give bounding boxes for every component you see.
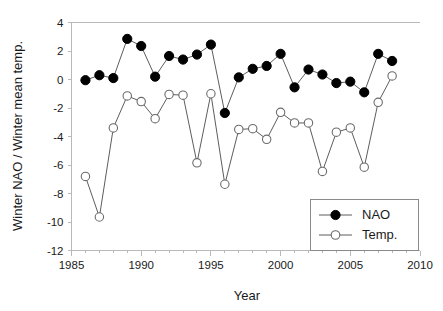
y-tick-label: 4 <box>57 17 64 29</box>
data-point-nao-1987 <box>95 71 104 80</box>
data-point-nao-1990 <box>137 41 146 50</box>
winter-nao-temperature-line-chart: 420-2-4-6-8-10-12 1985199019952000200520… <box>0 0 443 311</box>
data-point-temp-2001 <box>290 119 298 127</box>
data-point-temp-1991 <box>151 114 159 122</box>
y-tick-label: -8 <box>53 188 63 200</box>
x-tick-label: 2005 <box>338 259 364 271</box>
data-point-temp-1994 <box>193 159 201 167</box>
x-tick-label: 1985 <box>59 259 85 271</box>
data-point-nao-1995 <box>206 40 215 49</box>
data-point-nao-2004 <box>332 78 341 87</box>
data-point-temp-2004 <box>332 128 340 136</box>
data-point-temp-2005 <box>346 124 354 132</box>
data-point-temp-1988 <box>109 124 117 132</box>
data-point-nao-1999 <box>262 61 271 70</box>
data-point-temp-2006 <box>360 163 368 171</box>
data-point-nao-2008 <box>388 56 397 65</box>
data-point-temp-1999 <box>262 135 270 143</box>
x-axis-tick-labels: 198519901995200020052010 <box>59 259 433 271</box>
x-axis-title: Year <box>234 288 261 303</box>
data-point-temp-1986 <box>81 172 89 180</box>
y-tick-label: 0 <box>57 74 63 86</box>
data-point-nao-2005 <box>346 77 355 86</box>
y-axis-title: Winter NAO / Winter mean temp. <box>10 41 25 231</box>
y-axis-tick-labels: 420-2-4-6-8-10-12 <box>47 17 64 257</box>
legend-marker-nao <box>331 210 340 219</box>
data-point-temp-2007 <box>374 98 382 106</box>
data-point-temp-1998 <box>249 124 257 132</box>
data-point-temp-2008 <box>388 72 396 80</box>
data-point-nao-2006 <box>360 88 369 97</box>
data-point-temp-1996 <box>221 180 229 188</box>
data-point-temp-1987 <box>95 213 103 221</box>
x-tick-label: 1990 <box>128 259 154 271</box>
x-axis-ticks <box>72 251 421 256</box>
data-point-nao-1986 <box>81 76 90 85</box>
data-point-nao-1997 <box>234 73 243 82</box>
data-point-nao-1993 <box>178 55 187 64</box>
legend-label-temp: Temp. <box>362 227 397 242</box>
legend-marker-temp <box>331 231 340 240</box>
y-tick-label: 2 <box>57 45 63 57</box>
data-point-nao-1992 <box>164 51 173 60</box>
y-tick-label: -2 <box>53 102 63 114</box>
data-point-temp-2002 <box>304 119 312 127</box>
data-point-nao-1994 <box>192 50 201 59</box>
data-point-temp-2003 <box>318 167 326 175</box>
data-point-nao-1996 <box>220 108 229 117</box>
y-tick-label: -6 <box>53 159 63 171</box>
x-tick-label: 2000 <box>268 259 294 271</box>
data-point-temp-1990 <box>137 97 145 105</box>
data-point-temp-1995 <box>207 90 215 98</box>
data-point-temp-2000 <box>276 108 284 116</box>
y-tick-label: -4 <box>53 131 64 143</box>
y-axis-ticks <box>68 23 72 251</box>
series-markers <box>81 34 397 221</box>
chart-figure: 420-2-4-6-8-10-12 1985199019952000200520… <box>0 0 443 311</box>
data-point-temp-1993 <box>179 91 187 99</box>
data-point-nao-2002 <box>304 65 313 74</box>
data-point-nao-1989 <box>123 34 132 43</box>
data-point-nao-2003 <box>318 70 327 79</box>
data-point-nao-1991 <box>151 72 160 81</box>
data-point-nao-2001 <box>290 83 299 92</box>
x-tick-label: 1995 <box>198 259 224 271</box>
x-tick-label: 2010 <box>407 259 433 271</box>
data-point-temp-1992 <box>165 90 173 98</box>
data-point-nao-1988 <box>109 73 118 82</box>
data-point-nao-2000 <box>276 49 285 58</box>
data-point-nao-2007 <box>374 49 383 58</box>
y-tick-label: -12 <box>47 245 64 257</box>
y-tick-label: -10 <box>47 216 64 228</box>
legend-label-nao: NAO <box>362 207 390 222</box>
chart-legend: NAO Temp. <box>311 200 419 251</box>
data-point-nao-1998 <box>248 64 257 73</box>
data-point-temp-1989 <box>123 92 131 100</box>
data-point-temp-1997 <box>235 125 243 133</box>
